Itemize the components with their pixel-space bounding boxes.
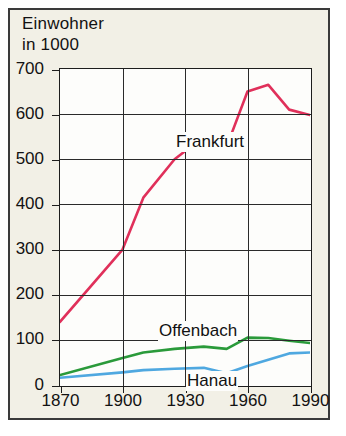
y-tick-label: 100 [0,329,44,349]
x-tick-mark [311,386,312,393]
x-tick-label: 1900 [104,391,142,411]
chart-title-line2: in 1000 [22,35,79,55]
x-tick-label: 1990 [292,391,330,411]
gridline-vertical [248,69,249,386]
y-tick-label: 200 [0,284,44,304]
gridline-vertical [123,69,124,386]
x-tick-label: 1960 [229,391,267,411]
y-tick-label: 500 [0,149,44,169]
x-tick-mark [248,386,249,393]
series-label-hanau: Hanau [186,371,238,391]
chart-figure: Einwohner in 1000 0100200300400500600700… [8,8,330,420]
x-tick-mark [61,386,62,393]
x-tick-label: 1870 [42,391,80,411]
y-tick-label: 0 [0,375,44,395]
series-label-frankfurt: Frankfurt [175,132,245,152]
x-tick-label: 1930 [167,391,205,411]
y-tick-label: 700 [0,59,44,79]
chart-title-line1: Einwohner [22,14,104,34]
series-label-offenbach: Offenbach [158,321,238,341]
y-tick-label: 400 [0,194,44,214]
x-tick-mark [123,386,124,393]
y-tick-label: 600 [0,104,44,124]
y-tick-label: 300 [0,239,44,259]
